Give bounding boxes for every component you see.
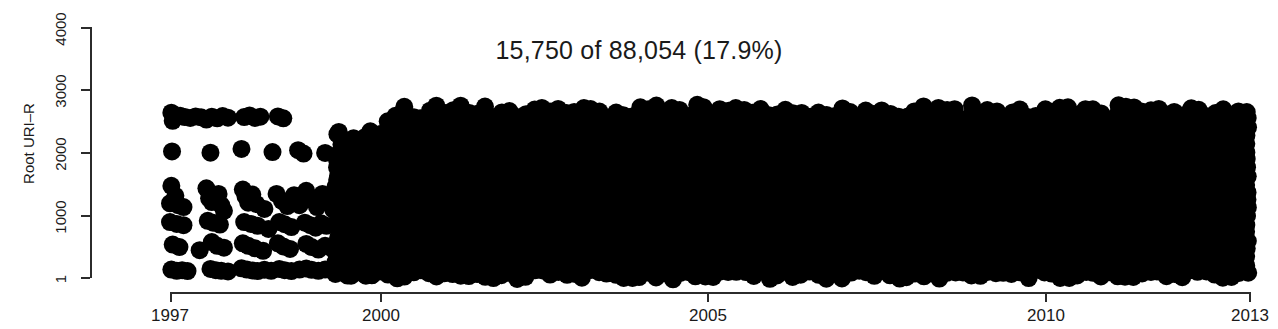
scatter-points-layer: [0, 0, 1278, 329]
scatter-plot-figure: 15,750 of 88,054 (17.9%) Root URI–R 4000…: [0, 0, 1278, 329]
